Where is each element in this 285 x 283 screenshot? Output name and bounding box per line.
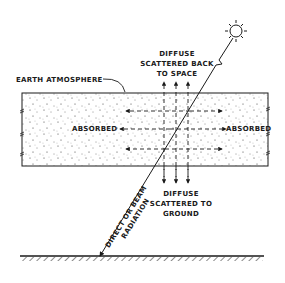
- label-absorbed-left: ABSORBED: [72, 125, 117, 133]
- label-absorbed-right: ABSORBED: [226, 125, 271, 133]
- label-scattered-down-1: DIFFUSE: [163, 190, 199, 198]
- label-earth-atmosphere: EARTH ATMOSPHERE: [16, 76, 103, 84]
- ground: [20, 256, 264, 261]
- atmosphere-leader: [103, 79, 125, 92]
- label-scattered-down-3: GROUND: [163, 210, 199, 218]
- label-scattered-down-2: SCATTERED TO: [150, 200, 212, 208]
- label-scattered-up-3: TO SPACE: [157, 70, 197, 78]
- label-scattered-up-2: SCATTERED BACK: [140, 60, 213, 68]
- label-scattered-up-1: DIFFUSE: [159, 50, 195, 58]
- sun-icon: [225, 20, 247, 42]
- radiation-diagram: [0, 0, 285, 283]
